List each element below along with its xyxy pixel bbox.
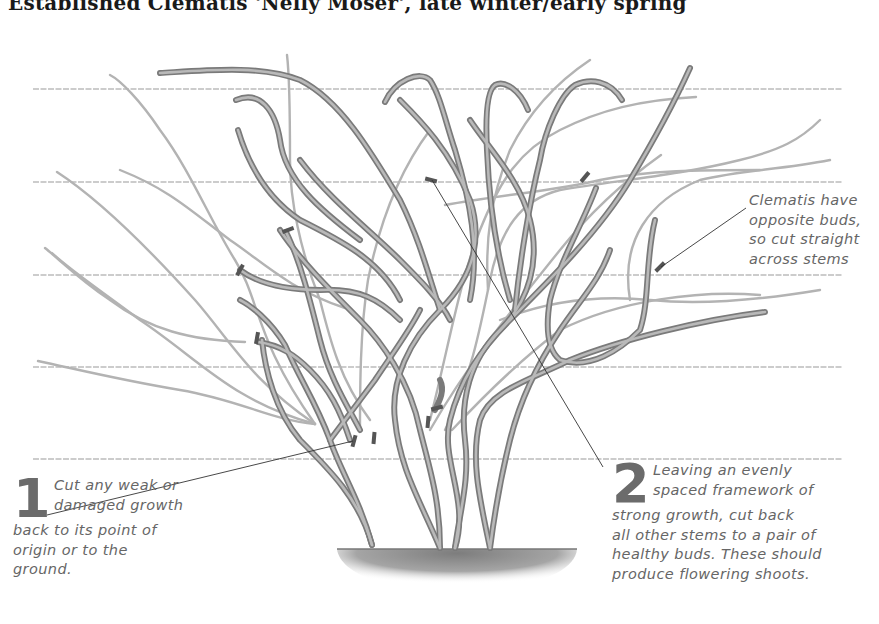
annotation-line: across stems	[749, 250, 861, 270]
annotation-line: strong growth, cut back	[612, 506, 822, 526]
annotation-line: origin or to the	[13, 541, 157, 561]
annotation-step-1: 1 Cut any weak or damaged growth back to…	[13, 476, 157, 580]
pruning-cut-icon	[654, 261, 665, 272]
young-stems	[38, 55, 830, 430]
annotation-line: produce flowering shoots.	[612, 565, 822, 585]
annotation-line: all other stems to a pair of	[612, 526, 822, 546]
annotation-step-2: 2 Leaving an evenly spaced framework of …	[612, 461, 822, 584]
annotation-line: back to its point of	[13, 521, 157, 541]
pruning-cut-icon	[580, 171, 591, 183]
leader-tip	[661, 208, 746, 267]
pruning-cut-icon	[371, 432, 376, 444]
pruning-cut-icons	[235, 171, 665, 447]
soil-mound-icon	[337, 549, 577, 592]
annotation-tip: Clematis have opposite buds, so cut stra…	[749, 191, 861, 269]
annotation-line: ground.	[13, 560, 157, 580]
annotation-line: Clematis have	[749, 191, 861, 211]
annotation-line: healthy buds. These should	[612, 545, 822, 565]
pruning-cut-icon	[425, 416, 430, 428]
annotation-line: so cut straight	[749, 230, 861, 250]
step-number: 2	[612, 462, 650, 506]
step-number: 1	[13, 477, 51, 521]
annotation-line: opposite buds,	[749, 211, 861, 231]
